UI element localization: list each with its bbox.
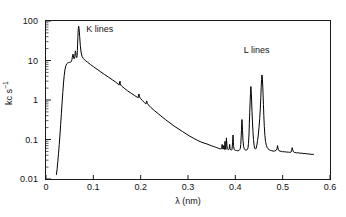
annotation-l-lines: L lines — [244, 45, 270, 55]
x-tick-label: 0 — [43, 182, 48, 192]
y-tick-label: 1 — [33, 95, 38, 105]
spectrum-plot-svg — [46, 21, 330, 179]
y-tick-label: 0.01 — [20, 174, 38, 184]
y-axis-title-exponent: −1 — [2, 81, 9, 89]
y-tick-label: 10 — [28, 56, 38, 66]
x-tick-label: 0.2 — [134, 182, 147, 192]
x-tick-label: 0.4 — [229, 182, 242, 192]
x-tick-label: 0.3 — [182, 182, 195, 192]
y-axis-ticks — [46, 21, 51, 179]
spectrum-line — [56, 26, 313, 174]
x-tick-label: 0.1 — [87, 182, 100, 192]
x-axis-tick-labels: 00.10.20.30.40.50.6 — [45, 182, 331, 196]
x-axis-ticks — [46, 175, 330, 179]
x-axis-title: λ (nm) — [45, 196, 331, 206]
y-tick-label: 0.1 — [25, 135, 38, 145]
y-axis-title: kc s−1 — [4, 63, 14, 123]
x-tick-label: 0.5 — [276, 182, 289, 192]
y-tick-label: 100 — [23, 16, 38, 26]
plot-area — [45, 20, 331, 180]
annotation-k-lines: K lines — [86, 24, 113, 34]
y-axis-title-base: kc s — [4, 89, 14, 105]
chart-figure: 0.010.1110100 kc s−1 00.10.20.30.40.50.6… — [0, 0, 346, 217]
x-tick-label: 0.6 — [324, 182, 337, 192]
